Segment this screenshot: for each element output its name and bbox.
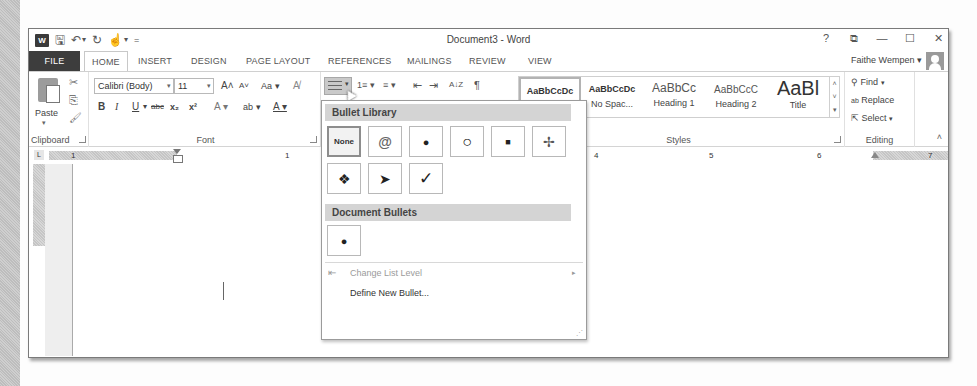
bullet-option-none[interactable]: None	[327, 126, 361, 157]
collapse-ribbon-icon[interactable]: ˄	[937, 132, 942, 142]
bullets-button[interactable]: ▾	[324, 77, 352, 95]
highlight-color-button[interactable]: ab ▾	[243, 100, 261, 114]
clear-formatting-icon[interactable]: A̸	[293, 79, 300, 93]
increase-indent-icon[interactable]: ⇥	[429, 78, 438, 92]
font-color-button[interactable]: A ▾	[273, 100, 287, 114]
tab-mailings[interactable]: MAILINGS	[407, 51, 452, 71]
user-account[interactable]: Faithe Wempen ▾	[851, 55, 922, 65]
paste-button[interactable]: Paste	[35, 108, 58, 118]
underline-button[interactable]: U	[132, 100, 139, 114]
diamond-cluster-bullet-icon: ❖	[338, 171, 351, 187]
cut-icon[interactable]: ✂	[69, 76, 78, 89]
style-name: Heading 1	[643, 98, 705, 108]
strikethrough-button[interactable]: abc	[151, 100, 164, 114]
ribbon-tabs: FILE HOME INSERT DESIGN PAGE LAYOUT REFE…	[29, 51, 948, 71]
change-list-level-item[interactable]: ⇤ Change List Level ▸	[322, 265, 586, 283]
bullets-dropdown-icon[interactable]: ▾	[345, 80, 349, 88]
font-name-combo[interactable]: Calibri (Body) ▾	[94, 78, 174, 94]
vertical-ruler[interactable]	[33, 164, 45, 356]
sort-icon[interactable]: A↓Z	[449, 78, 463, 92]
replace-label: Replace	[861, 95, 894, 105]
tab-view[interactable]: VIEW	[528, 51, 552, 71]
bullet-library-header: Bullet Library	[325, 104, 571, 121]
styles-more-icon[interactable]: ▾	[830, 103, 839, 116]
shrink-font-icon[interactable]: A˅	[239, 79, 249, 93]
close-icon[interactable]: ✕	[932, 32, 944, 45]
minimize-icon[interactable]: —	[876, 32, 888, 45]
window-title: Document3 - Word	[29, 34, 948, 45]
title-bar: W 🖫 ↶ ▾ ↻ ☝ ▾ = Document3 - Word ? ⧉ — ☐…	[29, 29, 948, 51]
font-size-dropdown-icon[interactable]: ▾	[207, 79, 211, 93]
italic-button[interactable]: I	[115, 100, 118, 114]
ribbon-display-options-icon[interactable]: ⧉	[848, 32, 860, 45]
style-no-spacing[interactable]: AaBbCcDc No Spac...	[581, 77, 643, 117]
document-bullets-header: Document Bullets	[325, 204, 571, 221]
subscript-button[interactable]: x₂	[170, 100, 179, 114]
tab-page-layout[interactable]: PAGE LAYOUT	[246, 51, 310, 71]
ruler-number: 5	[709, 151, 713, 160]
bullet-option-hollow-circle[interactable]: ○	[450, 126, 484, 157]
grow-font-icon[interactable]: A˄	[221, 79, 234, 93]
change-list-level-icon: ⇤	[328, 267, 336, 278]
bullet-option-filled-circle[interactable]: ●	[409, 126, 443, 157]
mouse-cursor-icon	[343, 88, 356, 101]
font-name-dropdown-icon[interactable]: ▾	[167, 79, 171, 93]
paste-dropdown-icon[interactable]: ▾	[42, 119, 46, 127]
find-label: Find	[861, 77, 879, 87]
replace-button[interactable]: ab Replace	[851, 95, 894, 105]
show-formatting-marks-icon[interactable]: ¶	[474, 78, 480, 92]
change-case-button[interactable]: Aa ▾	[261, 79, 280, 93]
tab-review[interactable]: REVIEW	[469, 51, 506, 71]
copy-icon[interactable]: ⎘	[69, 94, 78, 107]
binoculars-icon: ⚲	[851, 77, 861, 87]
bullet-option-spiral[interactable]: @	[368, 126, 402, 157]
bullet-option-four-point[interactable]: ✢	[532, 126, 566, 157]
bullet-option-arrowhead[interactable]: ➤	[368, 163, 402, 194]
bullet-none-label: None	[334, 137, 354, 146]
styles-scroll-down-icon[interactable]: ˅	[830, 90, 839, 103]
tab-home[interactable]: HOME	[84, 51, 128, 72]
numbering-button[interactable]: 1≡ ▾	[357, 78, 375, 92]
styles-scroll-up-icon[interactable]: ˄	[830, 77, 839, 90]
avatar[interactable]	[926, 52, 944, 70]
format-painter-icon[interactable]: 🖌	[69, 112, 82, 123]
bullet-option-filled-square[interactable]: ■	[491, 126, 525, 157]
select-button[interactable]: ⇱ Select ▾	[851, 113, 893, 123]
arrowhead-bullet-icon: ➤	[379, 171, 391, 187]
maximize-icon[interactable]: ☐	[904, 32, 916, 45]
spiral-bullet-icon: @	[378, 134, 392, 150]
text-effects-button[interactable]: A ▾	[214, 100, 228, 114]
help-icon[interactable]: ?	[820, 32, 832, 45]
clipboard-paste-icon[interactable]	[38, 78, 58, 102]
font-size-combo[interactable]: 11 ▾	[174, 78, 214, 94]
styles-launcher-icon[interactable]	[834, 136, 841, 143]
decrease-indent-icon[interactable]: ⇤	[413, 78, 422, 92]
bullet-option-diamond-cluster[interactable]: ❖	[327, 163, 361, 194]
style-heading-2[interactable]: AaBbCcC Heading 2	[705, 77, 767, 117]
document-bullet-filled-circle[interactable]: ●	[327, 225, 361, 256]
bullet-library-menu: Bullet Library None @ ● ○ ■ ✢ ❖ ➤ ✓ Docu…	[321, 100, 587, 340]
tab-file[interactable]: FILE	[29, 51, 80, 71]
left-indent-marker[interactable]	[173, 149, 181, 163]
define-new-bullet-item[interactable]: Define New Bullet...	[322, 285, 586, 303]
superscript-button[interactable]: x²	[189, 100, 197, 114]
tab-selector-icon[interactable]: L	[34, 150, 44, 160]
ruler-number: 1	[71, 151, 75, 160]
tab-insert[interactable]: INSERT	[138, 51, 172, 71]
clipboard-launcher-icon[interactable]	[79, 136, 86, 143]
multilevel-list-button[interactable]: ≡ ▾	[383, 78, 396, 92]
bold-button[interactable]: B	[98, 100, 105, 114]
resize-grip-icon[interactable]: ⋰	[576, 329, 583, 337]
menu-divider	[325, 262, 583, 263]
style-title[interactable]: AaBl Title	[767, 77, 829, 117]
bullet-option-checkmark[interactable]: ✓	[409, 163, 443, 194]
ruler-number: 1	[285, 151, 289, 160]
find-button[interactable]: ⚲ Find ▾	[851, 77, 885, 87]
tab-references[interactable]: REFERENCES	[328, 51, 392, 71]
right-indent-marker[interactable]	[871, 152, 879, 158]
styles-gallery-scroll[interactable]: ˄ ˅ ▾	[829, 77, 839, 117]
tab-design[interactable]: DESIGN	[191, 51, 227, 71]
underline-dropdown-icon[interactable]: ▾	[143, 100, 147, 114]
font-launcher-icon[interactable]	[310, 136, 317, 143]
style-heading-1[interactable]: AaBbCc Heading 1	[643, 77, 705, 117]
